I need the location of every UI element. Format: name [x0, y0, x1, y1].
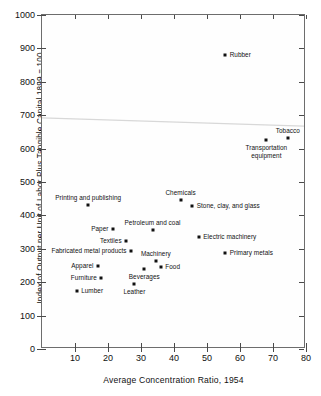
data-point-label: Furniture	[71, 274, 97, 281]
data-point-label: Petroleum and coal	[125, 219, 181, 226]
data-point	[111, 228, 114, 231]
data-point	[179, 198, 182, 201]
y-tick-label: 100	[20, 311, 35, 321]
data-point-label: Electric machinery	[203, 234, 256, 241]
y-tick-label: 700	[20, 110, 35, 120]
data-point-label: Stone, clay, and glass	[197, 202, 260, 209]
y-tick-mark-right	[299, 249, 304, 250]
data-point	[224, 54, 227, 57]
x-tick-label: 20	[103, 353, 113, 363]
y-tick-label: 200	[20, 277, 35, 287]
x-tick-label: 40	[169, 353, 179, 363]
y-tick-label: 500	[20, 177, 35, 187]
data-point-label: Food	[165, 263, 180, 270]
y-tick-mark-right	[299, 282, 304, 283]
y-tick-mark-right	[299, 48, 304, 49]
x-tick-mark	[207, 347, 208, 352]
x-tick-mark-top	[108, 15, 109, 19]
data-point-label: Rubber	[230, 51, 251, 58]
x-tick-label: 60	[235, 353, 245, 363]
x-tick-mark-top	[174, 15, 175, 19]
data-point-label: Transportation equipment	[236, 144, 296, 159]
y-tick-mark-inner	[42, 249, 46, 250]
trend-line	[42, 15, 304, 347]
y-tick-mark-right	[299, 82, 304, 83]
y-tick-mark-right	[299, 349, 304, 350]
data-point-label: Lumber	[81, 287, 103, 294]
x-tick-mark-top	[207, 15, 208, 19]
x-tick-label: 50	[202, 353, 212, 363]
y-tick-mark-inner	[42, 282, 46, 283]
y-tick-label: 400	[20, 210, 35, 220]
data-point	[159, 265, 162, 268]
x-tick-label: 80	[301, 353, 311, 363]
x-axis-title: Average Concentration Ratio, 1954	[41, 375, 306, 385]
x-tick-mark-inner	[207, 343, 208, 347]
x-tick-mark	[108, 347, 109, 352]
plot-area: 01002003004005006007008009001000 1020304…	[41, 14, 305, 348]
x-tick-mark-inner	[141, 343, 142, 347]
data-point	[130, 249, 133, 252]
x-tick-label: 10	[70, 353, 80, 363]
y-tick-label: 600	[20, 144, 35, 154]
y-tick-mark-right	[299, 215, 304, 216]
data-point	[151, 229, 154, 232]
x-tick-mark	[273, 347, 274, 352]
data-point	[154, 260, 157, 263]
y-tick-label: 0	[30, 344, 35, 354]
y-tick-mark-inner	[42, 182, 46, 183]
x-tick-mark-inner	[273, 343, 274, 347]
y-tick-mark-inner	[42, 48, 46, 49]
data-point	[87, 203, 90, 206]
x-tick-label: 30	[136, 353, 146, 363]
data-point-label: Textiles	[100, 238, 122, 245]
x-tick-mark-inner	[240, 343, 241, 347]
data-point-label: Beverages	[129, 273, 160, 280]
data-point-label: Paper	[91, 226, 108, 233]
x-tick-mark-top	[306, 15, 307, 19]
y-tick-mark-inner	[42, 115, 46, 116]
y-tick-mark-inner	[42, 82, 46, 83]
data-point	[191, 205, 194, 208]
data-point	[125, 240, 128, 243]
x-tick-mark-top	[240, 15, 241, 19]
data-point	[133, 282, 136, 285]
data-point-label: Primary metals	[230, 249, 273, 256]
y-tick-label: 900	[20, 43, 35, 53]
x-tick-mark-inner	[306, 343, 307, 347]
y-tick-label: 800	[20, 77, 35, 87]
x-tick-mark-inner	[75, 343, 76, 347]
data-point-label: Apparel	[71, 262, 93, 269]
y-tick-mark-inner	[42, 349, 46, 350]
data-point-label: Printing and publishing	[55, 193, 121, 200]
y-tick-mark-right	[299, 182, 304, 183]
data-point	[197, 236, 200, 239]
y-tick-mark-right	[299, 115, 304, 116]
y-tick-mark-inner	[42, 15, 46, 16]
y-tick-mark-right	[299, 15, 304, 16]
scatter-chart-figure: Index of Output per Unit of Labor Plus T…	[0, 0, 321, 396]
y-tick-label: 300	[20, 244, 35, 254]
y-tick-label: 1000	[15, 10, 35, 20]
y-tick-mark-right	[299, 149, 304, 150]
data-point-label: Machinery	[141, 250, 171, 257]
data-point-label: Chemicals	[165, 188, 195, 195]
x-tick-mark	[174, 347, 175, 352]
data-point-label: Leather	[123, 288, 145, 295]
x-tick-mark-inner	[108, 343, 109, 347]
data-point	[100, 276, 103, 279]
x-tick-mark-inner	[174, 343, 175, 347]
y-tick-mark-inner	[42, 316, 46, 317]
data-point	[97, 264, 100, 267]
data-point	[224, 251, 227, 254]
x-tick-mark	[75, 347, 76, 352]
data-point	[143, 268, 146, 271]
x-tick-mark	[141, 347, 142, 352]
data-point-label: Fabricated metal products	[51, 247, 126, 254]
x-tick-mark	[306, 347, 307, 352]
x-tick-mark-top	[75, 15, 76, 19]
data-point	[75, 289, 78, 292]
x-tick-mark	[240, 347, 241, 352]
x-tick-mark-top	[141, 15, 142, 19]
y-tick-mark-inner	[42, 215, 46, 216]
